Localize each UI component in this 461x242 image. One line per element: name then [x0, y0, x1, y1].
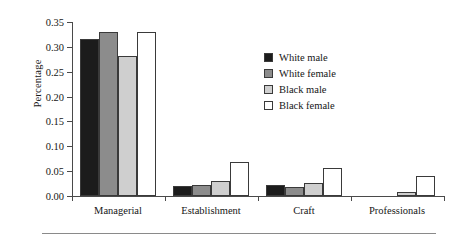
y-axis-tick-label: 0.35 [46, 17, 64, 28]
y-axis-line [72, 22, 73, 196]
bar [304, 183, 323, 196]
bar [230, 162, 249, 196]
bar [323, 168, 342, 196]
legend-swatch-icon [264, 85, 273, 94]
bar [211, 181, 230, 196]
chart-legend: White maleWhite femaleBlack maleBlack fe… [264, 50, 336, 113]
y-axis-tick-label: 0.20 [46, 91, 64, 102]
x-axis-tick-mark [258, 196, 259, 201]
bar [266, 185, 285, 196]
y-axis-tick-label: 0.15 [46, 116, 64, 127]
legend-label: Black male [279, 84, 327, 95]
legend-label: Black female [279, 100, 335, 111]
x-axis-tick-mark [72, 196, 73, 201]
x-axis-tick-mark [351, 196, 352, 201]
y-axis-title: Percentage [32, 29, 43, 139]
legend-swatch-icon [264, 69, 273, 78]
bar [118, 56, 137, 196]
x-axis-tick-mark [444, 196, 445, 201]
y-axis-tick-mark [67, 72, 72, 73]
legend-swatch-icon [264, 101, 273, 110]
x-axis-category-label: Professionals [369, 205, 425, 216]
y-axis-tick-label: 0.05 [46, 166, 64, 177]
legend-label: White male [279, 52, 328, 63]
legend-item: Black female [264, 98, 336, 113]
x-axis-category-label: Managerial [94, 205, 142, 216]
y-axis-tick-mark [67, 121, 72, 122]
y-axis-tick-label: 0.00 [46, 191, 64, 202]
y-axis-tick-label: 0.10 [46, 141, 64, 152]
legend-item: White male [264, 50, 336, 65]
y-axis-tick-mark [67, 171, 72, 172]
bar [416, 176, 435, 196]
y-axis-tick-mark [67, 47, 72, 48]
y-axis-tick-mark [67, 97, 72, 98]
bar [99, 32, 118, 196]
y-axis-tick-label: 0.25 [46, 66, 64, 77]
legend-label: White female [279, 68, 336, 79]
x-axis-category-label: Craft [293, 205, 315, 216]
bar [192, 185, 211, 196]
bottom-divider-rule [42, 233, 436, 234]
bar [80, 39, 99, 196]
legend-swatch-icon [264, 53, 273, 62]
bar [397, 192, 416, 196]
bar-chart-figure: Percentage 0.000.050.100.150.200.250.300… [0, 0, 461, 242]
y-axis-tick-mark [67, 146, 72, 147]
bar [285, 187, 304, 196]
y-axis-tick-mark [67, 22, 72, 23]
bar [137, 32, 156, 196]
legend-item: White female [264, 66, 336, 81]
y-axis-tick-label: 0.30 [46, 41, 64, 52]
x-axis-category-label: Establishment [181, 205, 241, 216]
x-axis-tick-mark [165, 196, 166, 201]
plot-area: 0.000.050.100.150.200.250.300.35 Manager… [72, 22, 444, 196]
bar [173, 186, 192, 196]
legend-item: Black male [264, 82, 336, 97]
